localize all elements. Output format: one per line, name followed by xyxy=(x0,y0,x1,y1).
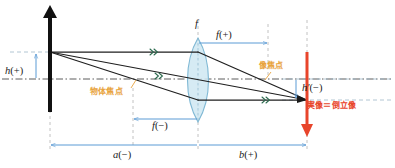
leader-object-focus xyxy=(131,80,136,88)
object-arrow-head xyxy=(43,5,57,18)
image-arrow-head xyxy=(301,124,313,137)
object-arrow xyxy=(43,5,57,112)
ray-diagram-svg xyxy=(0,0,395,168)
chevron-ray-focal xyxy=(155,73,162,79)
dimension-arrows xyxy=(36,43,306,145)
lens-diagram-canvas: h(+) f f(+) f(−) h′(−) a(−) b(+) 物体焦点 像焦… xyxy=(0,0,395,168)
guide-lines xyxy=(50,8,307,152)
ray-parallel-refracted xyxy=(198,52,307,100)
image-arrow xyxy=(301,52,313,137)
